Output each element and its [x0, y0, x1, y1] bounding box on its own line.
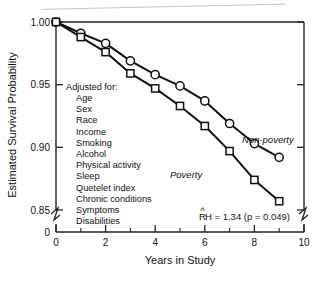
x-tick-label: 2 [103, 237, 109, 248]
adjustment-item: Alcohol [76, 149, 106, 159]
adjustment-note: Adjusted for: AgeSexRaceIncomeSmokingAlc… [66, 82, 152, 226]
x-tick-label: 0 [53, 237, 59, 248]
data-point-square [226, 147, 233, 154]
x-tick-label: 4 [152, 237, 158, 248]
adjustment-item-list: AgeSexRaceIncomeSmokingAlcoholPhysical a… [76, 93, 152, 226]
adjustment-item: Income [76, 127, 106, 137]
data-point-square [176, 102, 183, 109]
adjustment-item: Quetelet index [76, 183, 136, 193]
adjustment-item: Age [76, 93, 92, 103]
chart-canvas: 0246810 0.850.900.951.00 0 Non-poverty P… [0, 0, 326, 284]
y-tick-label: 0.90 [31, 142, 51, 153]
data-point-square [77, 33, 84, 40]
x-tick-label: 8 [252, 237, 258, 248]
data-point-circle [201, 97, 209, 105]
data-point-circle [275, 153, 283, 161]
data-point-square [276, 198, 283, 205]
hazard-ratio-value: H = 1.34 (p = 0.049) [205, 211, 290, 222]
y-axis-zero-label: 0 [44, 227, 50, 238]
adjustment-item: Symptoms [76, 205, 120, 215]
data-point-square [102, 48, 109, 55]
data-point-circle [102, 39, 110, 47]
x-axis-title: Years in Study [145, 254, 216, 266]
adjustment-item: Chronic conditions [76, 194, 152, 204]
adjustment-item: Race [76, 115, 97, 125]
y-axis-title: Estimated Survival Probability [6, 52, 18, 198]
y-tick-label: 1.00 [31, 17, 51, 28]
adjustment-item: Smoking [76, 138, 112, 148]
data-point-square [127, 70, 134, 77]
data-point-circle [176, 82, 184, 90]
adjustment-item: Physical activity [76, 160, 141, 170]
x-tick-label: 6 [202, 237, 208, 248]
data-point-circle [151, 71, 159, 79]
adjustment-item: Disabilities [76, 216, 120, 226]
survival-curve-figure: 0246810 0.850.900.951.00 0 Non-poverty P… [0, 0, 326, 284]
data-point-circle [126, 57, 134, 65]
adjustment-heading: Adjusted for: [66, 82, 118, 92]
data-point-square [52, 18, 59, 25]
x-axis-tick-labels: 0246810 [53, 237, 310, 248]
adjustment-item: Sex [76, 104, 92, 114]
y-axis-tick-labels: 0.850.900.951.00 [31, 17, 51, 216]
y-tick-label: 0.95 [31, 79, 51, 90]
data-point-square [152, 85, 159, 92]
x-tick-label: 10 [298, 237, 310, 248]
data-point-circle [226, 119, 234, 127]
series-label-poverty: Poverty [170, 169, 203, 180]
adjustment-item: Sleep [76, 171, 100, 181]
data-point-square [251, 176, 258, 183]
data-point-square [201, 122, 208, 129]
hazard-ratio-annotation: R ^ H = 1.34 (p = 0.049) [199, 205, 290, 222]
series-label-non-poverty: Non-poverty [242, 134, 295, 145]
y-tick-label: 0.85 [31, 205, 51, 216]
